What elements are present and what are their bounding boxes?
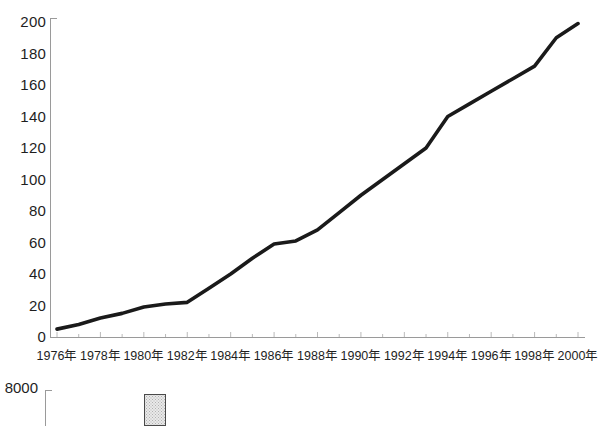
x-axis-tick-label: 1998年: [514, 349, 555, 363]
plot-area: [0, 0, 600, 378]
x-axis-tick-label: 1978年: [80, 349, 121, 363]
line-chart: 020406080100120140160180200 1976年1978年19…: [0, 0, 600, 378]
x-axis-tick-label: 1976年: [37, 349, 78, 363]
secondary-y-axis-top-label: 8000: [0, 380, 38, 396]
x-axis-tick-label: 1982年: [167, 349, 208, 363]
x-axis-tick-label: 1984年: [210, 349, 251, 363]
secondary-y-axis-line: [45, 390, 46, 426]
secondary-y-axis-top-tick: [45, 390, 52, 391]
x-axis-tick-labels: 1976年1978年1980年1982年1984年1986年1988年1990年…: [0, 349, 600, 369]
x-axis-tick-label: 2000年: [558, 349, 599, 363]
x-axis-tick-marks: [57, 332, 578, 337]
x-axis-tick-label: 1980年: [123, 349, 164, 363]
x-axis-tick-label: 1992年: [384, 349, 425, 363]
x-axis-tick-label: 1990年: [341, 349, 382, 363]
bar-item: [144, 394, 166, 426]
x-axis-tick-label: 1996年: [471, 349, 512, 363]
x-axis-tick-label: 1986年: [254, 349, 295, 363]
x-axis-tick-label: 1994年: [427, 349, 468, 363]
screenshot-canvas: 020406080100120140160180200 1976年1978年19…: [0, 0, 600, 426]
x-axis-tick-label: 1988年: [297, 349, 338, 363]
data-series-line: [57, 24, 578, 330]
bar-chart-partial: 8000: [0, 378, 600, 426]
